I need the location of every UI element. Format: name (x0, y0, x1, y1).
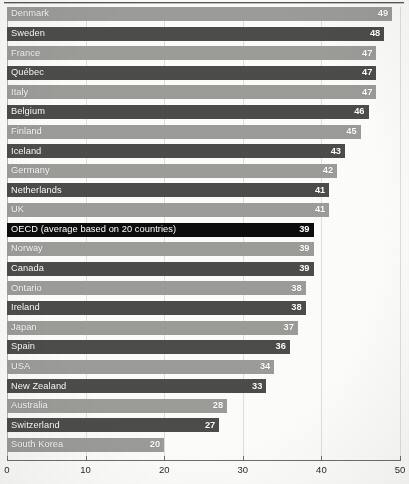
bar-value-label: 43 (331, 147, 345, 156)
bar-category-label: Australia (7, 401, 48, 410)
bar-category-label: OECD (average based on 20 countries) (7, 225, 176, 234)
bar-category-label: Spain (7, 342, 35, 351)
x-tick-label-0: 0 (4, 464, 9, 475)
x-tick-mark-10 (86, 456, 87, 461)
bar-category-label: Belgium (7, 107, 45, 116)
bar-row: Germany42 (0, 164, 409, 178)
x-tick-label-50: 50 (395, 464, 406, 475)
bar-row: Sweden48 (0, 27, 409, 41)
bar-value-label: 46 (354, 107, 368, 116)
x-tick-mark-40 (321, 456, 322, 461)
bar-category-label: Switzerland (7, 421, 60, 430)
bar-row: Finland45 (0, 125, 409, 139)
bar: New Zealand33 (7, 379, 266, 393)
bar-category-label: Finland (7, 127, 42, 136)
bar-value-label: 49 (378, 9, 392, 18)
bar-row: South Korea20 (0, 438, 409, 452)
bar-category-label: Denmark (7, 9, 49, 18)
x-tick-label-40: 40 (316, 464, 327, 475)
bar-row: Italy47 (0, 85, 409, 99)
bar: OECD (average based on 20 countries)39 (7, 223, 314, 237)
bar-row: UK41 (0, 203, 409, 217)
bar-value-label: 37 (283, 323, 297, 332)
bar-row: Switzerland27 (0, 418, 409, 432)
x-tick-mark-0 (7, 456, 8, 461)
bar-category-label: UK (7, 205, 24, 214)
x-tick-mark-20 (164, 456, 165, 461)
bar-chart: Denmark49Sweden48France47Québec47Italy47… (0, 0, 409, 484)
bar-value-label: 39 (299, 225, 313, 234)
bar-value-label: 39 (299, 264, 313, 273)
bar-row: Québec47 (0, 66, 409, 80)
bar-row: New Zealand33 (0, 379, 409, 393)
bar-category-label: Italy (7, 88, 28, 97)
bar: South Korea20 (7, 438, 164, 452)
bar-row: Ireland38 (0, 301, 409, 315)
x-tick-mark-50 (400, 456, 401, 461)
bar-row: Belgium46 (0, 105, 409, 119)
x-tick-mark-30 (243, 456, 244, 461)
x-axis-line (7, 460, 400, 461)
bar: Finland45 (7, 125, 361, 139)
bar-row: Spain36 (0, 340, 409, 354)
bar-value-label: 41 (315, 186, 329, 195)
bar: Ireland38 (7, 301, 306, 315)
bar-value-label: 45 (346, 127, 360, 136)
bar-row: Iceland43 (0, 144, 409, 158)
bar: Denmark49 (7, 7, 392, 21)
bar-category-label: France (7, 49, 40, 58)
bar: Ontario38 (7, 281, 306, 295)
bar: Switzerland27 (7, 418, 219, 432)
bar-value-label: 27 (205, 421, 219, 430)
bar-category-label: Norway (7, 244, 43, 253)
bar-value-label: 20 (150, 440, 164, 449)
bar-value-label: 38 (291, 303, 305, 312)
bar-category-label: Germany (7, 166, 50, 175)
bar: Germany42 (7, 164, 337, 178)
bar-row: Australia28 (0, 399, 409, 413)
bar-row: Netherlands41 (0, 183, 409, 197)
scan-artifact-rule-secondary (4, 3, 404, 4)
bar-row: Japan37 (0, 321, 409, 335)
bar: Canada39 (7, 262, 314, 276)
bar-row: USA34 (0, 360, 409, 374)
bar: Iceland43 (7, 144, 345, 158)
bar-category-label: USA (7, 362, 30, 371)
plot-area: Denmark49Sweden48France47Québec47Italy47… (0, 7, 409, 460)
bar: Norway39 (7, 242, 314, 256)
bar-value-label: 34 (260, 362, 274, 371)
x-tick-label-20: 20 (159, 464, 170, 475)
bar-row: OECD (average based on 20 countries)39 (0, 223, 409, 237)
bar-value-label: 42 (323, 166, 337, 175)
bar-rows: Denmark49Sweden48France47Québec47Italy47… (0, 7, 409, 458)
bar-category-label: Québec (7, 68, 44, 77)
bar: Netherlands41 (7, 183, 329, 197)
bar-value-label: 36 (276, 342, 290, 351)
bar: France47 (7, 46, 376, 60)
bar-value-label: 41 (315, 205, 329, 214)
bar-value-label: 47 (362, 88, 376, 97)
bar: Italy47 (7, 85, 376, 99)
bar-value-label: 38 (291, 284, 305, 293)
x-tick-label-10: 10 (80, 464, 91, 475)
x-tick-label-30: 30 (238, 464, 249, 475)
bar-value-label: 33 (252, 382, 266, 391)
bar-row: Ontario38 (0, 281, 409, 295)
bar-value-label: 48 (370, 29, 384, 38)
bar: Japan37 (7, 321, 298, 335)
bar-row: Canada39 (0, 262, 409, 276)
bar: USA34 (7, 360, 274, 374)
bar-value-label: 39 (299, 244, 313, 253)
bar-row: Norway39 (0, 242, 409, 256)
bar: Sweden48 (7, 27, 384, 41)
bar: Québec47 (7, 66, 376, 80)
bar: Spain36 (7, 340, 290, 354)
bar: UK41 (7, 203, 329, 217)
bar-value-label: 47 (362, 49, 376, 58)
bar-category-label: Netherlands (7, 186, 62, 195)
bar-category-label: New Zealand (7, 382, 66, 391)
x-axis: 01020304050 (0, 460, 409, 484)
bar-category-label: Ontario (7, 284, 42, 293)
bar-category-label: Sweden (7, 29, 45, 38)
bar-value-label: 28 (213, 401, 227, 410)
